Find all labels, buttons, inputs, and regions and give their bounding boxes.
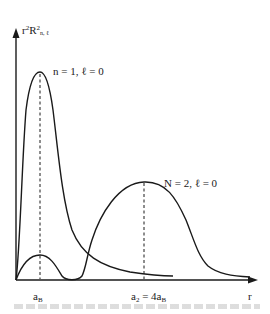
- guides: [40, 74, 144, 279]
- curve-n2: [16, 182, 250, 280]
- curve-n1-label: n = 1, ℓ = 0: [53, 65, 104, 77]
- curve-n2-label: N = 2, ℓ = 0: [164, 177, 217, 189]
- x-axis-label: r: [248, 290, 252, 302]
- blurred-caption: [14, 304, 260, 309]
- y-axis-label: r2R2n, ℓ: [22, 22, 49, 39]
- y-axis-arrow-icon: [13, 28, 20, 38]
- chart-canvas: [0, 0, 270, 314]
- axes: [16, 36, 250, 280]
